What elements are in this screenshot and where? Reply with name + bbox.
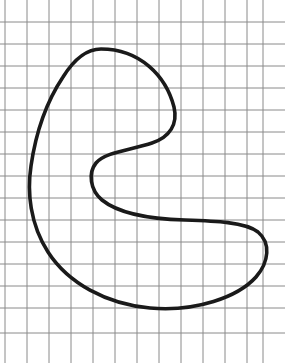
figure-canvas: [0, 0, 285, 363]
graph-figure: [0, 0, 285, 363]
